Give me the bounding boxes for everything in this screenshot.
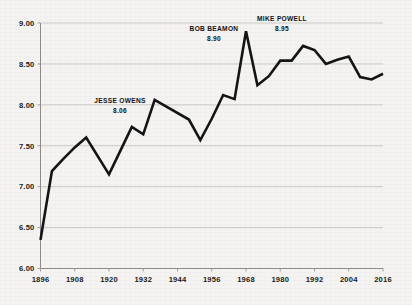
x-axis-label-1968: 1968 xyxy=(237,275,255,284)
x-axis-label-1908: 1908 xyxy=(66,275,84,284)
x-axis-label-2004: 2004 xyxy=(340,275,358,284)
x-axis-label-1980: 1980 xyxy=(271,275,289,284)
annotation-jesse-owens-value: 8.06 xyxy=(113,107,127,114)
annotation-bob-beamon-value: 8.90 xyxy=(207,35,221,42)
x-axis-label-2016: 2016 xyxy=(374,275,392,284)
x-axis-label-1956: 1956 xyxy=(203,275,221,284)
annotation-jesse-owens-name: JESSE OWENS xyxy=(94,97,146,104)
y-axis-label-6.00: 6.00 xyxy=(19,264,35,273)
annotation-mike-powell-value: 8.95 xyxy=(275,25,289,32)
annotation-bob-beamon-name: BOB BEAMON xyxy=(190,25,239,32)
y-axis-label-8.50: 8.50 xyxy=(19,60,35,69)
long-jump-progression-chart: 9.008.508.007.507.006.506.00 18961908192… xyxy=(0,0,412,305)
annotation-mike-powell-name: MIKE POWELL xyxy=(257,15,307,22)
y-axis-label-8.00: 8.00 xyxy=(19,101,35,110)
annotation-bob-beamon: BOB BEAMON 8.90 xyxy=(190,25,239,42)
x-axis-label-1992: 1992 xyxy=(306,275,324,284)
y-axis-label-9.00: 9.00 xyxy=(19,19,35,28)
x-axis-label-1896: 1896 xyxy=(32,275,50,284)
long-jump-data-line xyxy=(41,31,384,240)
annotation-jesse-owens: JESSE OWENS 8.06 xyxy=(94,97,146,114)
chart-svg: 9.008.508.007.507.006.506.00 18961908192… xyxy=(0,0,412,305)
gridlines-group xyxy=(41,23,384,228)
x-axis-labels-group: 1896190819201932194419561968198019922004… xyxy=(32,275,392,284)
annotation-mike-powell: MIKE POWELL 8.95 xyxy=(257,15,307,32)
y-axis-label-6.50: 6.50 xyxy=(19,223,35,232)
y-axis-label-7.50: 7.50 xyxy=(19,142,35,151)
x-axis-label-1920: 1920 xyxy=(100,275,118,284)
y-axis-label-7.00: 7.00 xyxy=(19,182,35,191)
y-axis-labels-group: 9.008.508.007.507.006.506.00 xyxy=(19,19,35,273)
x-axis-label-1932: 1932 xyxy=(134,275,152,284)
x-axis-label-1944: 1944 xyxy=(169,275,187,284)
